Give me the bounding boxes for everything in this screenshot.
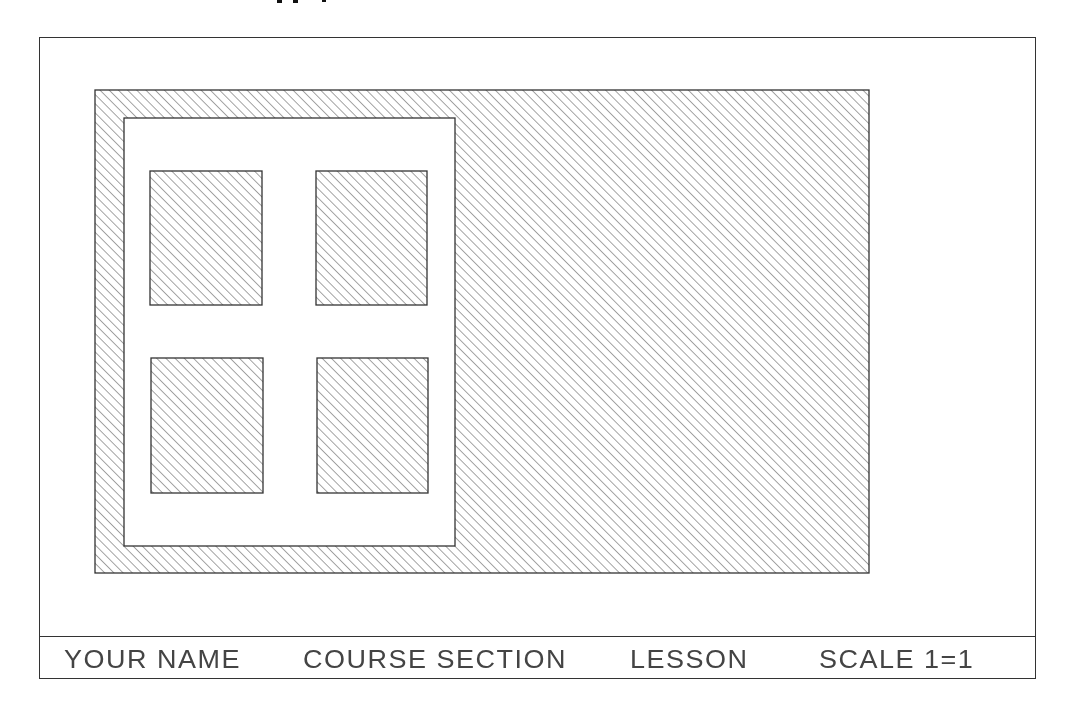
title-lesson: LESSON [630,645,749,674]
sheet-border [39,37,1036,679]
title-scale: SCALE 1=1 [819,645,974,674]
title-your-name: YOUR NAME [64,645,241,674]
title-course-section: COURSE SECTION [303,645,567,674]
